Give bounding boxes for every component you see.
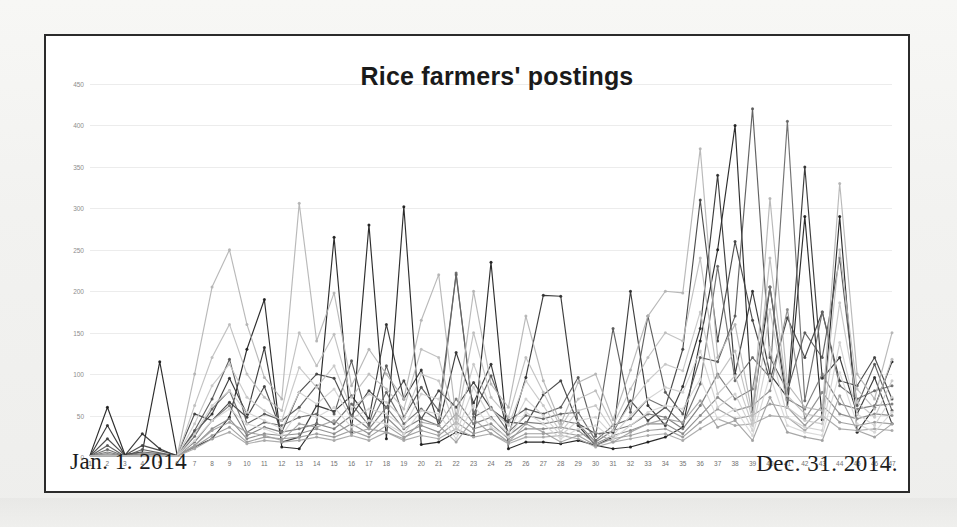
x-tick-label: 11 [261,460,268,467]
x-tick-label: 23 [470,460,477,467]
y-tick-label: 250 [73,246,84,253]
x-tick-label: 20 [418,460,425,467]
x-tick-label: 16 [348,460,355,467]
x-tick-label: 8 [210,460,214,467]
x-tick-label: 24 [487,460,494,467]
x-tick-label: 21 [435,460,442,467]
series-lines [90,84,892,457]
x-tick-label: 37 [714,460,721,467]
x-tick-label: 9 [228,460,232,467]
y-tick-label: 50 [77,412,84,419]
x-tick-label: 39 [749,460,756,467]
start-date-label: Jan. 1. 2014 [70,449,187,475]
x-tick-label: 26 [522,460,529,467]
x-tick-label: 38 [731,460,738,467]
chart-title: Rice farmers' postings [46,62,908,91]
y-tick-label: 400 [73,122,84,129]
x-tick-label: 32 [627,460,634,467]
x-tick-label: 27 [540,460,547,467]
y-tick-label: 150 [73,329,84,336]
x-tick-label: 10 [243,460,250,467]
scan-artifact [0,498,957,527]
x-tick-label: 36 [697,460,704,467]
x-tick-label: 31 [609,460,616,467]
x-tick-label: 35 [679,460,686,467]
x-tick-label: 34 [662,460,669,467]
x-tick-label: 15 [330,460,337,467]
x-tick-label: 12 [278,460,285,467]
series-series-5 [90,120,894,456]
chart-frame: Rice farmers' postings 05010015020025030… [44,34,910,493]
y-tick-label: 200 [73,288,84,295]
x-tick-label: 30 [592,460,599,467]
y-tick-label: 300 [73,205,84,212]
x-tick-label: 22 [453,460,460,467]
y-tick-label: 100 [73,371,84,378]
y-tick-label: 350 [73,163,84,170]
x-tick-label: 13 [296,460,303,467]
series-series-1 [90,124,894,455]
plot-area: 050100150200250300350400450 123456789101… [90,84,892,457]
x-tick-label: 19 [400,460,407,467]
end-date-label: Dec. 31. 2014. [756,451,898,477]
x-tick-label: 17 [365,460,372,467]
x-tick-label: 28 [557,460,564,467]
x-tick-label: 7 [193,460,197,467]
x-tick-label: 29 [575,460,582,467]
x-tick-label: 18 [383,460,390,467]
x-tick-label: 14 [313,460,320,467]
plot-wrapper: Rice farmers' postings 05010015020025030… [46,36,908,491]
x-tick-label: 33 [644,460,651,467]
x-tick-label: 25 [505,460,512,467]
